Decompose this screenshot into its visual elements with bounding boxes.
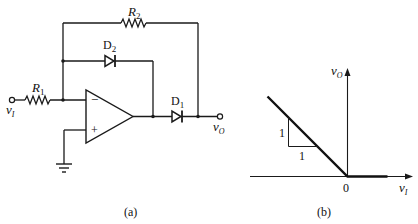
y-axis-label: vO <box>331 63 343 80</box>
slope-run-label: 1 <box>299 149 305 163</box>
diode-d2 <box>105 56 114 67</box>
caption-a: (a) <box>124 205 137 219</box>
label-d1: D1 <box>171 94 184 110</box>
caption-b: (b) <box>317 205 331 219</box>
label-r1: R1 <box>31 80 44 97</box>
origin-label: 0 <box>343 181 349 195</box>
label-r2: R2 <box>127 4 140 21</box>
y-axis-arrow-icon <box>345 68 351 76</box>
resistor-r1 <box>25 96 50 104</box>
x-axis-label: vI <box>399 180 408 197</box>
diode-d1 <box>172 111 181 122</box>
label-output: vO <box>213 119 225 136</box>
resistor-r2 <box>121 19 146 27</box>
opamp-minus: − <box>91 92 98 107</box>
opamp-plus: + <box>91 123 98 137</box>
circuit: − + R2 R1 D2 D1 vI vO (a) <box>6 4 225 219</box>
series-line-transfer <box>268 97 388 177</box>
label-input: vI <box>6 102 15 119</box>
label-d2: D2 <box>103 38 116 54</box>
transfer-chart: 1 1 0 vO vI (b) <box>250 63 413 219</box>
circuit-figure: − + R2 R1 D2 D1 vI vO (a) <box>0 0 418 224</box>
node <box>151 115 155 119</box>
x-axis-arrow-icon <box>405 174 413 180</box>
slope-rise-label: 1 <box>279 126 285 140</box>
node <box>196 115 200 119</box>
